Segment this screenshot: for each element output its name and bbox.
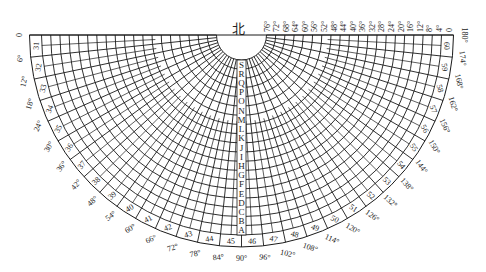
radial-subline [42,40,156,46]
azimuth-label: 78° [189,248,202,259]
top-angle-label: 60° [301,21,310,32]
top-angle-label: 76° [263,21,272,32]
ring-number-label: 33 [38,83,49,93]
ring-number-label: 43 [183,229,193,240]
radial-subline [328,40,442,46]
azimuth-label: 84° [212,252,224,262]
azimuth-label: 96° [259,252,271,262]
polar-grid-diagram: 北 SRQPONMLKJIHGFEDCBA3132333435363738394… [0,0,486,272]
ring-number-label: 59 [439,63,449,72]
ring-number-label: 46 [248,237,256,246]
radial-subline [272,116,313,222]
radial-line [266,38,452,58]
radial-subline [190,118,219,228]
azimuth-label: 6° [15,54,25,62]
azimuth-label: 114° [323,232,340,246]
azimuth-label: 174° [458,50,469,66]
top-angle-label: 24° [387,21,396,32]
radial-subline [246,121,252,235]
azimuth-label: 54° [104,209,118,223]
azimuth-label: 48° [85,194,99,208]
top-angle-label: 20° [397,21,406,32]
azimuth-label: 12° [18,75,29,88]
polar-grid-svg: SRQPONMLKJIHGFEDCBA313233343536373839404… [0,0,486,272]
radial-subline [264,118,293,228]
top-angle-label: 36° [358,21,367,32]
azimuth-label: 168° [453,73,465,90]
top-angle-label: 16° [406,21,415,32]
radial-subline [48,57,158,86]
azimuth-label: 66° [144,233,158,246]
azimuth-label: 0 [15,33,24,37]
azimuth-label: 108° [302,241,319,254]
ring-number-label: 34 [44,104,55,115]
ring-number-label: 57 [428,104,439,115]
top-angle-label: 0 [445,28,454,32]
azimuth-label: 138° [398,176,415,193]
azimuth-label: 144° [413,158,429,176]
radial-subline [309,89,397,161]
radial-line [219,60,239,246]
azimuth-label: 18° [24,97,36,110]
radial-subline [86,89,174,161]
azimuth-label: 36° [55,159,69,173]
ring-number-label: 45 [227,237,235,246]
ring-number-label: 42 [163,222,174,233]
ring-number-label: 32 [33,63,43,72]
top-angle-label: 68° [282,21,291,32]
top-angle-label: 4° [435,25,444,32]
azimuth-label: 30° [42,140,55,154]
radial-line [31,38,217,58]
azimuth-label: 132° [382,193,399,210]
azimuth-label: 120° [344,221,362,236]
radial-subline [231,121,237,235]
azimuth-label: 24° [32,119,45,133]
top-angle-label: 56° [310,21,319,32]
top-angle-label: 64° [291,21,300,32]
ring-circle [217,35,267,60]
top-angle-label: 48° [330,21,339,32]
top-angle-label: 32° [368,21,377,32]
ring-number-label: 58 [435,83,446,93]
top-angle-label: 8° [425,25,434,32]
azimuth-label: 90° [236,254,247,263]
azimuth-label: 72° [166,242,179,254]
radial-subline [116,102,188,190]
azimuth-label: 150° [426,138,441,156]
azimuth-label: 126° [363,208,381,224]
ring-number-label: 44 [205,234,214,244]
azimuth-label: 60° [123,222,137,235]
azimuth-label: 156° [438,117,452,135]
azimuth-label: 162° [446,95,459,112]
top-angle-label: 40° [349,21,358,32]
radial-subline [170,116,211,222]
radial-subline [322,66,428,107]
top-angle-label: 28° [377,21,386,32]
ring-number-label: 48 [290,229,300,240]
ring-number-label: 60 [442,42,451,50]
radial-line [244,60,264,246]
radial-subline [55,66,161,107]
top-angle-label: 12° [416,21,425,32]
top-angle-label: 52° [320,21,329,32]
azimuth-label: 180° [460,27,469,42]
azimuth-label: 102° [279,248,296,260]
azimuth-label: 42° [69,177,83,191]
ring-number-label: 31 [32,42,41,50]
top-angle-label: 44° [339,21,348,32]
radial-subline [296,102,368,190]
ring-number-label: 49 [310,222,321,233]
ring-letter-label: A [238,225,245,235]
radial-subline [325,57,435,86]
top-angle-label: 72° [272,21,281,32]
ring-number-label: 47 [269,234,278,244]
